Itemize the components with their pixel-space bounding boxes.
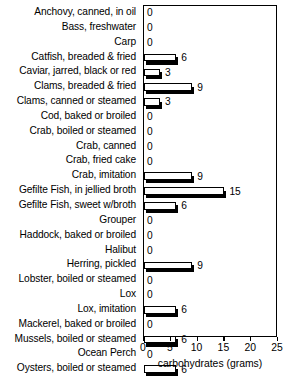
bar-row: 6 bbox=[144, 51, 276, 66]
category-label: Mackerel, baked or broiled bbox=[0, 317, 140, 332]
x-tick-mark bbox=[170, 337, 171, 341]
bar-value-label: 15 bbox=[229, 185, 240, 199]
bar-row: 0 bbox=[144, 273, 276, 288]
category-label: Lobster, boiled or steamed bbox=[0, 272, 140, 287]
bar bbox=[144, 69, 160, 77]
bar-value-label: 0 bbox=[147, 318, 153, 332]
bar-row: 0 bbox=[144, 229, 276, 244]
bar bbox=[144, 262, 192, 270]
category-label: Cod, baked or broiled bbox=[0, 109, 140, 124]
category-label: Clams, breaded & fried bbox=[0, 79, 140, 94]
bar-row: 0 bbox=[144, 21, 276, 36]
bars-container: 00063930000915600090060606 bbox=[144, 6, 276, 336]
x-tick-mark bbox=[250, 337, 251, 341]
category-label: Crab, canned bbox=[0, 139, 140, 154]
bar-row: 0 bbox=[144, 318, 276, 333]
bar bbox=[144, 98, 160, 106]
bar-row: 9 bbox=[144, 258, 276, 273]
category-label: Lox bbox=[0, 287, 140, 302]
x-tick-label: 5 bbox=[158, 342, 182, 354]
x-tick-label: 10 bbox=[185, 342, 209, 354]
category-label: Carp bbox=[0, 35, 140, 50]
bar-value-label: 0 bbox=[147, 229, 153, 243]
bar-row: 6 bbox=[144, 199, 276, 214]
category-label: Crab, fried cake bbox=[0, 153, 140, 168]
x-tick-label: 0 bbox=[131, 342, 155, 354]
category-label: Gefilte Fish, sweet w/broth bbox=[0, 198, 140, 213]
category-label: Clams, canned or steamed bbox=[0, 94, 140, 109]
bar-value-label: 0 bbox=[147, 288, 153, 302]
bar-value-label: 3 bbox=[165, 95, 171, 109]
category-label: Halibut bbox=[0, 243, 140, 258]
bar-value-label: 9 bbox=[197, 259, 203, 273]
x-tick-label: 25 bbox=[265, 342, 287, 354]
plot-area: 00063930000915600090060606 bbox=[143, 5, 277, 337]
x-tick-label: 15 bbox=[211, 342, 235, 354]
bar bbox=[144, 306, 176, 314]
bar-row: 0 bbox=[144, 154, 276, 169]
x-tick-label: 20 bbox=[238, 342, 262, 354]
bar bbox=[144, 202, 176, 210]
x-axis-title: carbohydrates (grams) bbox=[143, 358, 277, 369]
bar-value-label: 9 bbox=[197, 170, 203, 184]
category-label: Crab, imitation bbox=[0, 168, 140, 183]
bar-row: 9 bbox=[144, 169, 276, 184]
category-label: Lox, imitation bbox=[0, 302, 140, 317]
bar-value-label: 0 bbox=[147, 214, 153, 228]
bar-value-label: 0 bbox=[147, 36, 153, 50]
bar-value-label: 0 bbox=[147, 6, 153, 20]
bar-row: 15 bbox=[144, 184, 276, 199]
bar bbox=[144, 172, 192, 180]
bar bbox=[144, 187, 224, 195]
category-label: Gefilte Fish, in jellied broth bbox=[0, 183, 140, 198]
x-tick-mark bbox=[277, 337, 278, 341]
bar-row: 0 bbox=[144, 140, 276, 155]
bar-value-label: 6 bbox=[181, 199, 187, 213]
bar-value-label: 3 bbox=[165, 66, 171, 80]
bar-row: 3 bbox=[144, 65, 276, 80]
bar-value-label: 0 bbox=[147, 155, 153, 169]
category-label: Ocean Perch bbox=[0, 346, 140, 361]
bar-value-label: 0 bbox=[147, 244, 153, 258]
x-axis: carbohydrates (grams) 0510152025 bbox=[143, 337, 277, 382]
bar-row: 0 bbox=[144, 244, 276, 259]
bar-value-label: 9 bbox=[197, 81, 203, 95]
bar-chart: Anchovy, canned, in oilBass, freshwaterC… bbox=[0, 0, 287, 382]
bar-value-label: 0 bbox=[147, 125, 153, 139]
bar-row: 6 bbox=[144, 303, 276, 318]
bar-row: 9 bbox=[144, 80, 276, 95]
bar-row: 0 bbox=[144, 36, 276, 51]
bar-row: 3 bbox=[144, 95, 276, 110]
category-label: Haddock, baked or broiled bbox=[0, 228, 140, 243]
bar-value-label: 6 bbox=[181, 51, 187, 65]
x-tick-mark bbox=[197, 337, 198, 341]
bar-row: 0 bbox=[144, 6, 276, 21]
category-axis-labels: Anchovy, canned, in oilBass, freshwaterC… bbox=[0, 5, 140, 376]
bar-value-label: 0 bbox=[147, 274, 153, 288]
bar-value-label: 6 bbox=[181, 303, 187, 317]
x-tick-mark bbox=[143, 337, 144, 341]
category-label: Mussels, boiled or steamed bbox=[0, 332, 140, 347]
category-label: Anchovy, canned, in oil bbox=[0, 5, 140, 20]
category-label: Herring, pickled bbox=[0, 257, 140, 272]
bar-row: 0 bbox=[144, 214, 276, 229]
bar-value-label: 0 bbox=[147, 21, 153, 35]
category-label: Crab, boiled or steamed bbox=[0, 124, 140, 139]
category-label: Oysters, boiled or steamed bbox=[0, 361, 140, 376]
bar-value-label: 0 bbox=[147, 140, 153, 154]
bar-row: 0 bbox=[144, 110, 276, 125]
bar bbox=[144, 83, 192, 91]
bar-row: 0 bbox=[144, 125, 276, 140]
category-label: Catfish, breaded & fried bbox=[0, 50, 140, 65]
bar-value-label: 0 bbox=[147, 110, 153, 124]
category-label: Grouper bbox=[0, 213, 140, 228]
category-label: Caviar, jarred, black or red bbox=[0, 64, 140, 79]
bar bbox=[144, 54, 176, 62]
x-tick-mark bbox=[223, 337, 224, 341]
bar-row: 0 bbox=[144, 288, 276, 303]
category-label: Bass, freshwater bbox=[0, 20, 140, 35]
